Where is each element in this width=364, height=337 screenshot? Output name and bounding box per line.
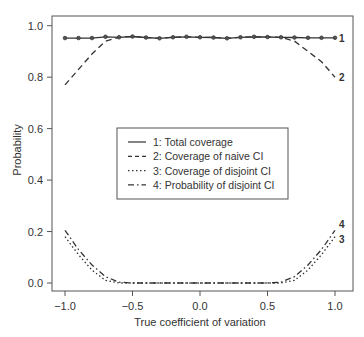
- y-tick-label: 0.8: [28, 71, 43, 83]
- series-end-labels: 1234: [339, 33, 345, 245]
- data-marker: [293, 36, 297, 40]
- data-marker: [252, 35, 256, 39]
- data-marker: [171, 35, 175, 39]
- data-marker: [212, 36, 216, 40]
- data-marker: [131, 35, 135, 39]
- legend-label: 1: Total coverage: [153, 136, 233, 148]
- series-end-label: 1: [339, 33, 345, 44]
- legend: 1: Total coverage2: Coverage of naive CI…: [117, 128, 288, 199]
- series-end-label: 4: [339, 219, 345, 230]
- x-tick-label: −0.5: [122, 300, 144, 312]
- x-axis: −1.0−0.50.00.51.0: [54, 291, 343, 312]
- series-end-label: 2: [339, 72, 345, 83]
- x-tick-label: 1.0: [327, 300, 342, 312]
- data-marker: [198, 35, 202, 39]
- legend-label: 4: Probability of disjoint CI: [153, 179, 274, 191]
- y-axis-label: Probability: [11, 124, 23, 176]
- y-axis: 0.00.20.40.60.81.0: [28, 20, 52, 289]
- data-marker: [306, 36, 310, 40]
- data-marker: [144, 36, 148, 40]
- series-end-label: 3: [339, 234, 345, 245]
- y-tick-label: 1.0: [28, 20, 43, 32]
- y-tick-label: 0.4: [28, 174, 43, 186]
- data-marker: [225, 37, 229, 41]
- x-tick-label: −1.0: [54, 300, 76, 312]
- legend-label: 2: Coverage of naive CI: [153, 150, 263, 162]
- x-axis-label: True coefficient of variation: [134, 316, 265, 328]
- data-marker: [104, 35, 108, 39]
- legend-label: 3: Coverage of disjoint CI: [153, 165, 271, 177]
- data-marker: [63, 36, 67, 40]
- series-line: [65, 230, 335, 283]
- data-marker: [320, 36, 324, 40]
- data-marker: [117, 35, 121, 39]
- series-line: [65, 37, 335, 85]
- y-tick-label: 0.0: [28, 277, 43, 289]
- data-marker: [185, 35, 189, 39]
- data-marker: [158, 37, 162, 41]
- x-tick-label: 0.0: [192, 300, 207, 312]
- data-marker: [333, 36, 337, 40]
- y-tick-label: 0.2: [28, 226, 43, 238]
- data-marker: [266, 35, 270, 39]
- data-marker: [239, 35, 243, 39]
- data-marker: [90, 36, 94, 40]
- x-tick-label: 0.5: [260, 300, 275, 312]
- y-tick-label: 0.6: [28, 123, 43, 135]
- chart: 0.00.20.40.60.81.0 −1.0−0.50.00.51.0 Pro…: [0, 0, 364, 337]
- data-marker: [77, 36, 81, 40]
- data-marker: [279, 35, 283, 39]
